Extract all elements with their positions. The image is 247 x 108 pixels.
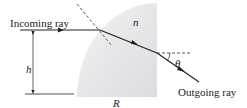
incoming-ray-label: Incoming ray	[10, 18, 69, 29]
angle-label: θ	[175, 58, 180, 69]
radius-label: R	[113, 98, 120, 108]
index-label: n	[133, 17, 139, 28]
refraction-diagram: Incoming ray h R n θ Outgoing ray	[0, 0, 247, 108]
height-label: h	[26, 64, 32, 75]
outgoing-ray-label: Outgoing ray	[178, 87, 236, 98]
quarter-circle-lens	[77, 3, 157, 97]
